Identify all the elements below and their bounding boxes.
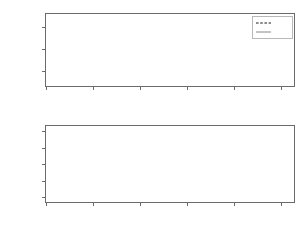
- legend-entry-phi: [256, 28, 289, 37]
- top-panel-xtickmark: [281, 87, 282, 90]
- bottom-panel-xtickmark: [234, 203, 235, 206]
- bottom-panel: [0, 118, 302, 230]
- legend-solid-swatch: [256, 29, 271, 35]
- bottom-panel-xtickmark: [281, 203, 282, 206]
- top-panel-xtickmark: [187, 87, 188, 90]
- legend-dashed-swatch: [256, 20, 271, 26]
- top-panel-xtickmark: [46, 87, 47, 90]
- top-panel-xtickmark: [140, 87, 141, 90]
- bottom-panel-xtickmark: [46, 203, 47, 206]
- top-panel-xtickmark: [93, 87, 94, 90]
- bottom-panel-xtickmark: [187, 203, 188, 206]
- bottom-panel-plot-area: [45, 125, 295, 203]
- bottom-panel-xtickmark: [140, 203, 141, 206]
- top-panel-legend: [252, 16, 293, 39]
- figure-canvas: [0, 0, 302, 230]
- bottom-panel-xtickmark: [93, 203, 94, 206]
- top-panel-xtickmark: [234, 87, 235, 90]
- bottom-panel-svg: [46, 126, 294, 202]
- legend-entry-v: [256, 19, 289, 28]
- top-panel: [0, 0, 302, 115]
